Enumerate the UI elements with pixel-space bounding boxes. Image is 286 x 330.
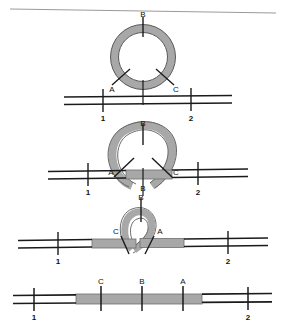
- panel-1-strand-top: [64, 96, 232, 98]
- panel-1-label-position-2: 2: [189, 114, 194, 123]
- panel-3-label-a: A: [157, 227, 163, 236]
- panel-2-strand-top-left: [48, 171, 126, 172]
- panel-3-strand-top-left: [18, 240, 92, 241]
- panel-3-strand-top-right: [184, 238, 268, 239]
- panel-3: B C A 1 2: [18, 193, 268, 266]
- panel-2-strand-bottom-right: [172, 177, 248, 178]
- panel-3-gray-segment-right: [140, 239, 184, 248]
- panel-3-label-position-1: 1: [56, 257, 61, 266]
- recombination-diagram: B A C 1 2: [0, 0, 286, 330]
- panel-4-label-b: B: [139, 277, 144, 286]
- panel-3-strand-bottom-right: [184, 246, 268, 247]
- panel-3-label-b: B: [138, 193, 143, 202]
- panel-1-ring-inner-edge: [119, 33, 168, 82]
- panel-1-strand-bottom: [64, 103, 232, 105]
- panel-1-label-position-1: 1: [101, 114, 106, 123]
- panel-1: B A C 1 2: [64, 10, 232, 123]
- diagram-canvas: B A C 1 2: [0, 0, 286, 330]
- panel-1-label-c: C: [173, 85, 179, 94]
- panel-3-label-position-2: 2: [226, 257, 231, 266]
- panel-2-label-position-1: 1: [86, 188, 91, 197]
- panel-4-strand-top-right: [202, 294, 272, 295]
- panel-3-strand-bottom-left: [18, 247, 92, 248]
- panel-3-label-c: C: [113, 227, 119, 236]
- panel-2-label-b: B: [140, 119, 145, 128]
- panel-2-label-a: A: [108, 168, 114, 177]
- panel-4-strand-bottom-left: [13, 303, 76, 304]
- panel-2-label-b-lower: B: [140, 184, 145, 193]
- panel-2-strand-bottom-left: [48, 178, 126, 179]
- panel-4-strand-bottom-right: [202, 302, 272, 303]
- panel-4-label-position-2: 2: [246, 313, 251, 322]
- panel-1-ring: [115, 29, 172, 86]
- panel-3-gray-segment-left: [92, 239, 136, 248]
- panel-4-label-position-1: 1: [32, 313, 37, 322]
- panel-1-label-b: B: [140, 10, 145, 19]
- panel-2: B A C B 1 2: [48, 119, 248, 197]
- panel-4-strand-top-left: [13, 295, 76, 296]
- panel-1-label-a: A: [109, 85, 115, 94]
- panel-2-strand-top-right: [172, 169, 248, 170]
- panel-4-label-a: A: [180, 277, 186, 286]
- panel-2-label-position-2: 2: [196, 188, 201, 197]
- panel-4-label-c: C: [98, 277, 104, 286]
- panel-4: C B A 1 2: [13, 277, 272, 322]
